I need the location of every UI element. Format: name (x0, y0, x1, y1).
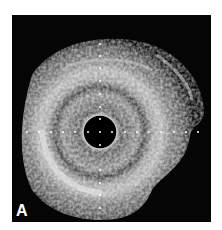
ivus-image (12, 15, 211, 222)
ultrasound-image-frame: A (12, 15, 211, 222)
panel-label: A (16, 203, 28, 219)
